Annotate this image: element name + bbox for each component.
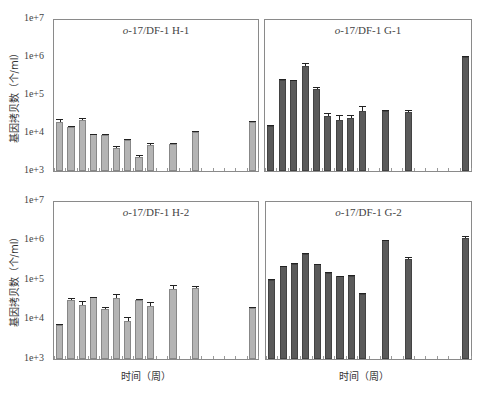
x-tick	[111, 356, 112, 359]
data-bar	[359, 294, 366, 359]
error-cap	[124, 139, 131, 140]
data-bar	[113, 148, 120, 171]
x-tick	[460, 168, 461, 171]
data-bar	[324, 116, 331, 171]
data-bar	[291, 264, 298, 359]
x-tick	[224, 356, 225, 359]
panel-title: o-17/DF-1 G-1	[265, 24, 471, 36]
error-cap	[359, 293, 366, 294]
x-tick	[276, 168, 277, 171]
x-tick	[299, 168, 300, 171]
data-bar	[336, 276, 343, 359]
error-cap	[405, 110, 412, 111]
x-tick	[201, 356, 202, 359]
error-cap	[359, 106, 366, 107]
error-cap	[147, 302, 154, 303]
x-tick	[437, 356, 438, 359]
x-tick	[380, 356, 381, 359]
x-tick	[156, 168, 157, 171]
x-tick	[88, 168, 89, 171]
y-axis-label-bottom: 基因拷贝数（个/ml）	[6, 230, 21, 330]
x-tick	[77, 356, 78, 359]
data-bar	[336, 120, 343, 171]
error-cap	[382, 110, 389, 111]
data-bar	[325, 273, 332, 360]
x-tick	[99, 168, 100, 171]
error-cap	[68, 298, 75, 299]
data-bar	[302, 254, 309, 359]
x-tick	[213, 168, 214, 171]
data-bar	[302, 66, 309, 171]
x-tick	[213, 356, 214, 359]
title-text: -17/DF-1 H-1	[128, 24, 189, 36]
error-cap	[302, 253, 309, 254]
x-tick	[391, 168, 392, 171]
data-bar	[268, 280, 275, 359]
data-bar	[135, 300, 142, 359]
x-tick	[357, 168, 358, 171]
title-text: -17/DF-1 G-2	[341, 206, 402, 218]
data-bar	[169, 289, 176, 359]
error-cap	[192, 131, 199, 132]
error-cap	[268, 279, 275, 280]
error-cap	[249, 121, 256, 122]
x-tick	[289, 356, 290, 359]
data-bar	[90, 134, 97, 171]
x-tick	[368, 168, 369, 171]
data-bar	[124, 321, 131, 359]
data-bar	[90, 297, 97, 359]
x-tick	[379, 168, 380, 171]
x-tick	[425, 168, 426, 171]
error-cap	[249, 307, 256, 308]
x-tick	[414, 356, 415, 359]
panel-title: o-17/DF-1 H-2	[54, 206, 258, 218]
x-tick	[122, 168, 123, 171]
error-cap	[324, 113, 331, 114]
x-tick	[277, 356, 278, 359]
x-tick	[65, 168, 66, 171]
error-cap	[280, 266, 287, 267]
x-tick	[88, 356, 89, 359]
data-bar	[462, 57, 469, 171]
x-tick	[54, 168, 55, 171]
data-bar	[56, 122, 63, 171]
panel-title: o-17/DF-1 H-1	[54, 24, 258, 36]
data-bar	[135, 157, 142, 171]
data-bar	[382, 111, 389, 171]
error-cap	[405, 257, 412, 258]
data-bar	[359, 111, 366, 171]
x-tick	[179, 168, 180, 171]
x-tick	[133, 356, 134, 359]
data-bar	[124, 140, 131, 171]
panel-title: o-17/DF-1 G-2	[266, 206, 471, 218]
data-bar	[290, 80, 297, 171]
data-bar	[192, 288, 199, 359]
error-cap	[302, 63, 309, 64]
x-tick	[190, 356, 191, 359]
data-bar	[192, 132, 199, 171]
data-bar	[279, 80, 286, 171]
x-tick	[414, 168, 415, 171]
error-cap	[68, 126, 75, 127]
error-cap	[290, 80, 297, 81]
x-tick	[266, 356, 267, 359]
data-bar	[348, 276, 355, 359]
x-tick	[201, 168, 202, 171]
x-axis-label-right: 时间（周）	[339, 368, 389, 383]
x-tick	[258, 356, 259, 359]
error-cap	[102, 307, 109, 308]
error-cap	[136, 155, 143, 156]
error-cap	[90, 134, 97, 135]
error-cap	[170, 285, 177, 286]
error-cap	[170, 143, 177, 144]
ytick-1e7: 1e+7	[10, 12, 44, 23]
x-tick	[391, 356, 392, 359]
data-bar	[382, 240, 389, 359]
x-tick	[265, 168, 266, 171]
title-text: -17/DF-1 H-2	[128, 206, 189, 218]
x-tick	[346, 356, 347, 359]
data-bar	[462, 238, 469, 359]
ytick-1e7: 1e+7	[10, 194, 44, 205]
data-bar	[313, 89, 320, 171]
x-tick	[425, 356, 426, 359]
